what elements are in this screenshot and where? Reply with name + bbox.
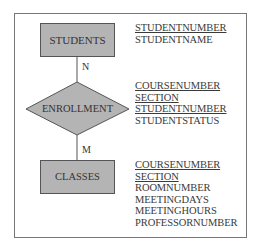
attribute: STUDENTSTATUS: [135, 115, 226, 127]
entity-students-label: STUDENTS: [40, 34, 115, 46]
attribute: STUDENTNAME: [135, 34, 226, 46]
attribute: ROOMNUMBER: [135, 182, 237, 194]
attribute: MEETINGHOURS: [135, 205, 237, 217]
attribute-key: COURSENUMBER: [135, 159, 237, 171]
attribute: PROFESSORNUMBER: [135, 217, 237, 229]
cardinality-m: M: [82, 144, 91, 155]
students-attributes: STUDENTNUMBER STUDENTNAME: [135, 22, 226, 45]
attribute-key: STUDENTNUMBER: [135, 22, 226, 34]
attribute: MEETINGDAYS: [135, 194, 237, 206]
cardinality-n: N: [82, 61, 89, 72]
enrollment-attributes: COURSENUMBER SECTION STUDENTNUMBER STUDE…: [135, 80, 226, 126]
attribute-key: COURSENUMBER: [135, 80, 226, 92]
entity-classes-label: CLASSES: [40, 171, 115, 182]
attribute-key: SECTION: [135, 92, 226, 104]
attribute-key: SECTION: [135, 171, 237, 183]
relationship-enrollment-label: ENROLLMENT: [26, 103, 129, 114]
classes-attributes: COURSENUMBER SECTION ROOMNUMBER MEETINGD…: [135, 159, 237, 228]
attribute-key: STUDENTNUMBER: [135, 103, 226, 115]
